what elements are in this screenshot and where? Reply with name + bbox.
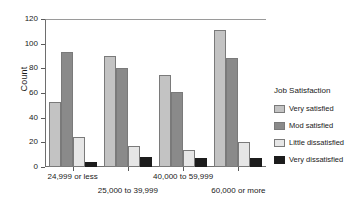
- y-axis-tick: 120: [0, 19, 45, 20]
- y-axis-title: Count: [19, 49, 29, 109]
- y-axis-tick-label: 20: [29, 137, 38, 146]
- x-axis-tick-mark: [183, 167, 184, 171]
- legend-swatch: [274, 122, 285, 130]
- bar: [159, 75, 171, 168]
- legend-item: Mod satisfied: [274, 118, 351, 133]
- x-axis-tick-label: 25,000 to 39,999: [98, 186, 158, 195]
- bar: [171, 92, 183, 167]
- x-axis-tick-mark: [128, 167, 129, 171]
- legend-item: Very dissatisfied: [274, 152, 351, 167]
- bar: [214, 30, 226, 167]
- legend-label: Mod satisfied: [289, 121, 333, 130]
- legend-items: Very satisfiedMod satisfiedLittle dissat…: [274, 101, 351, 167]
- y-axis-tick-label: 100: [25, 39, 38, 48]
- bar-group: [159, 19, 207, 167]
- bar: [85, 162, 97, 167]
- legend-item: Very satisfied: [274, 101, 351, 116]
- legend-swatch: [274, 139, 285, 147]
- x-axis-tick-mark: [238, 167, 239, 171]
- x-axis-tick-label: 60,000 or more: [211, 186, 265, 195]
- y-axis-tick: 100: [0, 44, 45, 45]
- bar: [195, 158, 207, 167]
- bars-layer: [45, 19, 266, 167]
- x-axis-tick-mark: [73, 167, 74, 171]
- bar: [116, 68, 128, 167]
- y-axis-tick: 20: [0, 142, 45, 143]
- legend-label: Very satisfied: [289, 104, 334, 113]
- bar-group: [104, 19, 152, 167]
- legend-label: Little dissatisfied: [289, 138, 344, 147]
- legend-swatch: [274, 156, 285, 164]
- bar: [73, 137, 85, 167]
- bar: [226, 58, 238, 167]
- legend-swatch: [274, 105, 285, 113]
- y-axis-tick: 0: [0, 167, 45, 168]
- bar-group: [214, 19, 262, 167]
- y-axis-tick-label: 120: [25, 14, 38, 23]
- bar-group: [49, 19, 97, 167]
- y-axis-tick: 80: [0, 68, 45, 69]
- bar: [61, 52, 73, 167]
- bar-chart: Count 020406080100120 24,999 or less25,0…: [0, 0, 351, 207]
- y-axis-tick: 40: [0, 118, 45, 119]
- y-axis-tick-label: 0: [34, 162, 38, 171]
- legend-title: Job Satisfaction: [274, 86, 351, 95]
- legend-item: Little dissatisfied: [274, 135, 351, 150]
- y-axis-tick-label: 80: [29, 63, 38, 72]
- bar: [104, 56, 116, 167]
- x-axis-tick-label: 24,999 or less: [47, 172, 97, 181]
- bar: [250, 158, 262, 167]
- chart-legend: Job Satisfaction Very satisfiedMod satis…: [274, 86, 351, 169]
- legend-label: Very dissatisfied: [289, 155, 343, 164]
- y-axis-tick: 60: [0, 93, 45, 94]
- x-axis-tick-label: 40,000 to 59,999: [153, 172, 213, 181]
- y-axis-tick-label: 40: [29, 113, 38, 122]
- bar: [49, 102, 61, 167]
- bar: [140, 157, 152, 167]
- y-axis-tick-mark: [41, 167, 45, 168]
- bar: [128, 146, 140, 167]
- bar: [238, 142, 250, 167]
- y-axis-tick-label: 60: [29, 88, 38, 97]
- bar: [183, 150, 195, 167]
